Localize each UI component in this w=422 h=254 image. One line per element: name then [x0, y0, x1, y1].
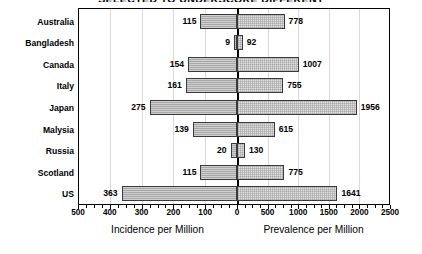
- value-label-incidence: 9: [182, 35, 230, 50]
- x-axis-title-left: Incidence per Million: [73, 224, 243, 235]
- value-label-incidence: 154: [136, 57, 184, 72]
- chart-row: Italy161755: [0, 75, 422, 97]
- value-label-prevalence: 92: [247, 35, 257, 50]
- bar-incidence: [150, 100, 237, 115]
- category-label: Bangladesh: [0, 32, 74, 54]
- bar-prevalence: [237, 14, 285, 29]
- bar-prevalence: [237, 122, 275, 137]
- bar-incidence: [193, 122, 237, 137]
- category-label: Russia: [0, 140, 74, 162]
- value-label-prevalence: 615: [279, 122, 293, 137]
- chart-row: Japan2751956: [0, 97, 422, 119]
- category-label: Australia: [0, 11, 74, 33]
- chart-row: Australia115778: [0, 11, 422, 33]
- x-axis-tick-labels: 50040030020010005001000150020002500: [0, 208, 422, 219]
- axis-titles: Incidence per Million Prevalence per Mil…: [0, 224, 422, 240]
- bar-prevalence: [237, 186, 337, 201]
- category-label: Japan: [0, 97, 74, 119]
- bar-incidence: [200, 165, 237, 180]
- value-label-incidence: 20: [179, 143, 227, 158]
- category-label: Scotland: [0, 162, 74, 184]
- category-label: Malysia: [0, 119, 74, 141]
- chart-row: Scotland115775: [0, 162, 422, 184]
- bar-prevalence: [237, 143, 245, 158]
- value-label-incidence: 161: [134, 78, 182, 93]
- value-label-prevalence: 130: [249, 143, 263, 158]
- bar-prevalence: [237, 165, 284, 180]
- value-label-prevalence: 1956: [361, 100, 380, 115]
- value-label-prevalence: 755: [287, 78, 301, 93]
- value-label-incidence: 363: [70, 186, 118, 201]
- bar-incidence: [200, 14, 237, 29]
- bar-prevalence: [237, 78, 283, 93]
- value-label-incidence: 115: [148, 14, 196, 29]
- bar-incidence: [122, 186, 237, 201]
- chart-title: SELECTED TO UNDERSCORE DIFFERENT: [0, 0, 422, 2]
- category-label: US: [0, 183, 74, 205]
- chart-row: Canada1541007: [0, 54, 422, 76]
- value-label-prevalence: 1007: [303, 57, 322, 72]
- chart-row: Bangladesh992: [0, 32, 422, 54]
- value-label-incidence: 139: [141, 122, 189, 137]
- category-label: Italy: [0, 75, 74, 97]
- value-label-incidence: 275: [98, 100, 146, 115]
- bar-incidence: [188, 57, 237, 72]
- chart-row: US3631641: [0, 183, 422, 205]
- chart-container: SELECTED TO UNDERSCORE DIFFERENT Austral…: [0, 0, 422, 254]
- category-label: Canada: [0, 54, 74, 76]
- value-label-prevalence: 775: [288, 165, 302, 180]
- bar-prevalence: [237, 57, 299, 72]
- x-axis-title-right: Prevalence per Million: [219, 224, 409, 235]
- bar-prevalence: [237, 35, 243, 50]
- value-label-incidence: 115: [148, 165, 196, 180]
- x-tick-label-prevalence: 2500: [370, 208, 410, 217]
- value-label-prevalence: 778: [289, 14, 303, 29]
- value-label-prevalence: 1641: [341, 186, 360, 201]
- bar-prevalence: [237, 100, 357, 115]
- chart-row: Russia20130: [0, 140, 422, 162]
- bar-incidence: [186, 78, 237, 93]
- chart-row: Malysia139615: [0, 119, 422, 141]
